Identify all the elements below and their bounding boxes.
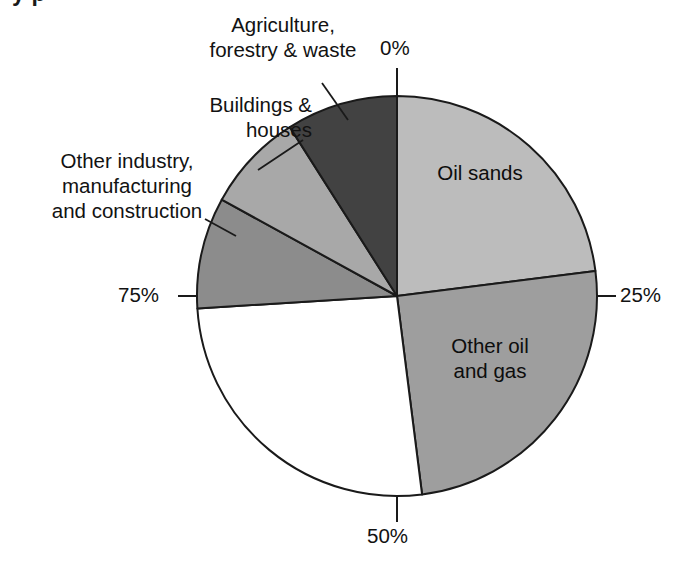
pie-chart-page: y p Agriculture, forestry & waste Buildi… xyxy=(0,0,675,574)
callout-label-agriculture: Agriculture, forestry & waste xyxy=(188,12,378,62)
axis-tick-label-0: 0% xyxy=(380,36,410,60)
callout-label-other-industry: Other industry, manufacturing and constr… xyxy=(18,148,236,223)
slice-label-oil-sands: Oil sands xyxy=(405,160,555,185)
pie-slices-group xyxy=(197,96,597,496)
axis-tick-label-50: 50% xyxy=(367,524,408,548)
pie-chart-svg xyxy=(0,0,675,574)
axis-tick-label-75: 75% xyxy=(118,283,159,307)
slice-label-other-oil-and-gas: Other oil and gas xyxy=(420,333,560,383)
pie-slice[interactable] xyxy=(197,296,422,496)
axis-tick-label-25: 25% xyxy=(620,283,661,307)
pie-slice[interactable] xyxy=(397,96,595,296)
callout-label-buildings: Buildings & houses xyxy=(140,92,312,142)
